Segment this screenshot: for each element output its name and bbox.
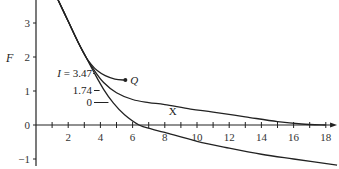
series-label: 0 — [87, 96, 93, 108]
x-tick-label: 14 — [256, 131, 268, 143]
curve-i-1-74 — [58, 0, 326, 125]
endpoint-label-q: Q — [130, 74, 138, 86]
y-ticks: −10123 — [18, 17, 36, 165]
y-tick-label: 2 — [25, 51, 31, 63]
y-axis-label: F — [5, 51, 14, 65]
series-label: 1.74 — [73, 84, 93, 96]
x-tick-label: 2 — [65, 131, 71, 143]
x-tick-label: 16 — [288, 131, 300, 143]
endpoint-dot — [123, 78, 127, 82]
y-tick-label: 0 — [25, 119, 31, 131]
axes: 24681012141618 −10123 — [18, 0, 337, 166]
chart: 24681012141618 −10123 F X I = 3.47Q1.740 — [0, 0, 339, 169]
series-labels: I = 3.47Q1.740 — [56, 67, 138, 108]
x-tick-label: 18 — [320, 131, 332, 143]
x-tick-label: 12 — [224, 131, 235, 143]
series-label: I = 3.47 — [56, 67, 92, 79]
x-axis-arrow — [330, 123, 337, 128]
y-tick-label: 3 — [25, 17, 31, 29]
y-tick-label: −1 — [18, 153, 30, 165]
x-tick-label: 6 — [130, 131, 136, 143]
x-tick-label: 4 — [98, 131, 104, 143]
y-tick-label: 1 — [25, 85, 31, 97]
